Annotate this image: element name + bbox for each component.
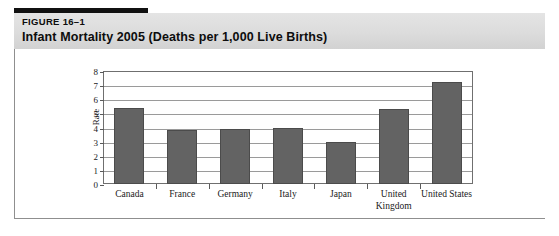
figure-container: FIGURE 16–1 Infant Mortality 2005 (Death… (0, 0, 559, 236)
x-axis-labels-group: CanadaFranceGermanyItalyJapanUnited King… (103, 189, 473, 219)
x-axis-tick-label: Canada (103, 189, 156, 201)
y-axis-tick-label: 6 (94, 95, 99, 105)
y-axis-tick-label: 7 (94, 81, 99, 91)
x-axis-tick-label: Japan (314, 189, 367, 201)
y-axis-tick-label: 3 (94, 138, 99, 148)
y-axis-tick-label: 2 (94, 152, 99, 162)
y-axis-tick-label: 1 (94, 166, 99, 176)
bar (326, 142, 356, 184)
y-axis-tick-label: 5 (94, 109, 99, 119)
bar (432, 82, 462, 184)
x-axis-tick-label: Italy (262, 189, 315, 201)
bar-chart: Rate 012345678 CanadaFranceGermanyItalyJ… (0, 0, 559, 236)
bar (273, 128, 303, 185)
bar (220, 129, 250, 184)
y-axis-tick-label: 8 (94, 67, 99, 77)
x-axis-tick-label: United Kingdom (367, 189, 420, 212)
bar (379, 109, 409, 184)
y-axis-tick-label: 4 (94, 124, 99, 134)
bars-group (103, 71, 473, 184)
x-axis-tick-label: Germany (209, 189, 262, 201)
bar (114, 108, 144, 184)
bar (167, 130, 197, 184)
x-axis-tick-label: France (156, 189, 209, 201)
y-axis-tick-label: 0 (94, 180, 99, 190)
x-axis-tick-label: United States (420, 189, 473, 201)
